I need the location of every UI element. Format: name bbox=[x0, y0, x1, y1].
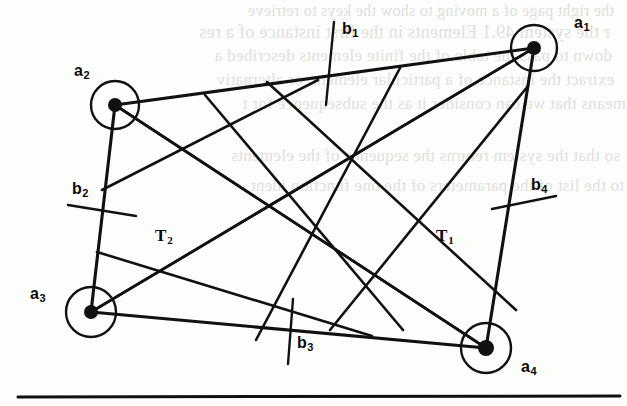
edge-label-b2-subscript: 2 bbox=[82, 187, 88, 199]
vertex-label-a3: a3 bbox=[30, 285, 45, 303]
tick-mark-b1 bbox=[326, 22, 334, 105]
region-label-T1-subscript: 1 bbox=[448, 234, 454, 246]
edge-label-b3: b3 bbox=[297, 334, 313, 352]
tick-marks-group bbox=[68, 22, 556, 364]
vertex-dot-a2 bbox=[108, 98, 122, 112]
lattice-line-zig-6 bbox=[267, 82, 516, 310]
vertex-dot-a3 bbox=[84, 305, 98, 319]
vertex-dot-a4 bbox=[478, 340, 494, 356]
lattice-lines-group bbox=[91, 48, 534, 348]
edge-label-b3-subscript: 3 bbox=[307, 341, 313, 353]
edge-edge-a2-a1 bbox=[115, 48, 534, 105]
bottom-rule-group bbox=[18, 396, 620, 397]
edge-label-b4: b4 bbox=[531, 176, 547, 194]
vertex-label-a4-subscript: 4 bbox=[530, 365, 536, 377]
vertex-dot-a1 bbox=[527, 41, 541, 55]
edge-label-b1: b1 bbox=[342, 20, 358, 38]
lattice-line-zig-5 bbox=[97, 252, 372, 336]
region-label-T2-subscript: 2 bbox=[167, 234, 173, 246]
edge-label-b4-subscript: 4 bbox=[541, 183, 547, 195]
tick-mark-b4 bbox=[492, 196, 556, 209]
region-label-T1: T1 bbox=[436, 226, 453, 246]
vertex-label-a2: a2 bbox=[74, 62, 89, 80]
vertex-label-a2-subscript: 2 bbox=[83, 69, 89, 81]
lattice-line-zig-4 bbox=[102, 80, 318, 190]
vertex-label-a4: a4 bbox=[521, 358, 536, 376]
edge-label-b2: b2 bbox=[72, 180, 88, 198]
figure-page: the right page of a moving to show the k… bbox=[0, 0, 627, 406]
edge-label-b1-subscript: 1 bbox=[352, 27, 358, 39]
region-label-T2: T2 bbox=[155, 226, 172, 246]
edge-diagonal-a3-a1 bbox=[91, 48, 534, 312]
outer-edges-group bbox=[91, 48, 534, 348]
bottom-rule bbox=[18, 396, 620, 397]
vertex-label-a1-subscript: 1 bbox=[583, 21, 589, 33]
graph-diagram-canvas bbox=[0, 0, 627, 406]
vertex-label-a1: a1 bbox=[574, 14, 589, 32]
vertex-label-a3-subscript: 3 bbox=[39, 292, 45, 304]
